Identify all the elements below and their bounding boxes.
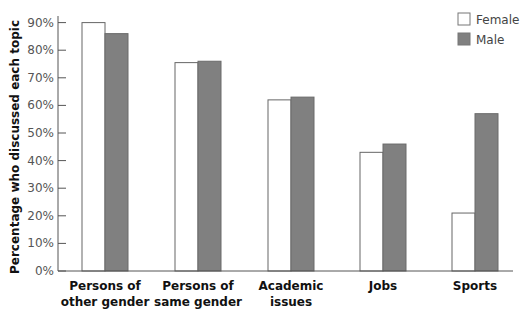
y-tick-label: 20% [27,209,54,223]
x-category-label: Persons of [162,279,234,293]
x-category-label: same gender [154,295,242,309]
bar-female [175,63,198,271]
bar-male [383,144,406,271]
x-category-label: other gender [61,295,150,309]
bar-chart: Percentage who discussed each topic 0%10… [0,0,522,311]
bar-male [475,114,498,271]
y-tick-label: 0% [35,264,54,278]
legend-swatch-male [458,33,470,45]
x-axis-labels: Persons ofother genderPersons ofsame gen… [61,279,497,309]
svg-text:Percentage who discussed each: Percentage who discussed each topic [8,20,22,274]
bar-male [105,34,128,271]
y-tick-label: 80% [27,43,54,57]
bar-female [268,100,291,271]
y-tick-label: 30% [27,181,54,195]
bars [82,23,498,271]
bar-male [198,61,221,271]
x-category-label: Persons of [69,279,141,293]
y-axis-ticks: 0%10%20%30%40%50%60%70%80%90% [27,16,66,278]
legend-label-male: Male [476,33,504,47]
y-tick-label: 70% [27,71,54,85]
x-category-label: Academic [259,279,324,293]
x-category-label: Sports [453,279,497,293]
x-category-label: Jobs [368,279,397,293]
bar-male [291,97,314,271]
legend-swatch-female [458,13,470,25]
y-tick-label: 10% [27,236,54,250]
legend: FemaleMale [458,13,519,47]
bar-female [82,23,105,271]
y-axis-title: Percentage who discussed each topic [8,20,22,274]
y-tick-label: 40% [27,154,54,168]
bar-female [360,152,383,271]
y-tick-label: 90% [27,16,54,30]
legend-label-female: Female [476,13,519,27]
bar-female [452,213,475,271]
x-category-label: issues [270,295,312,309]
y-tick-label: 60% [27,98,54,112]
y-tick-label: 50% [27,126,54,140]
